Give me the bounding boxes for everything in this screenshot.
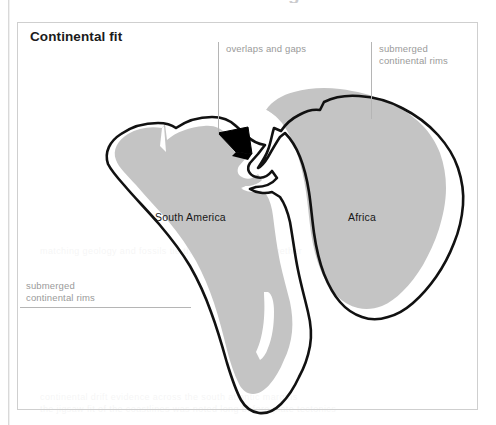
figure-title: Continental fit (30, 29, 122, 44)
annotation-overlaps-and-gaps: overlaps and gaps (226, 43, 306, 55)
cropped-heading-above-figure: a tribute to Alfred Wegener (86, 0, 416, 3)
map-label-africa: Africa (348, 211, 376, 223)
annotation-submerged-continental-rims-right: submerged continental rims (379, 43, 448, 66)
figure-frame (17, 22, 478, 410)
map-label-south-america: South America (155, 211, 226, 223)
annotation-submerged-continental-rims-left: submerged continental rims (26, 280, 95, 303)
leader-line-submerged-rims-right (371, 42, 372, 119)
page-edge-rule-soft (9, 0, 10, 425)
figure-page: a tribute to Alfred Wegener continental … (0, 0, 496, 425)
leader-line-submerged-rims-left (20, 307, 191, 308)
leader-line-overlaps-and-gaps (218, 42, 219, 134)
